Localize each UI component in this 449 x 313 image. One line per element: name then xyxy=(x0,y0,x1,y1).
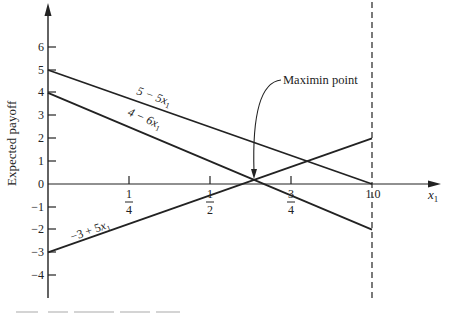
fraction-denominator: 4 xyxy=(288,203,294,217)
x-tick-half: 1 2 xyxy=(206,187,214,217)
x-tick-quarter: 1 4 xyxy=(125,187,133,217)
x-ticks xyxy=(129,176,291,184)
y-tick-label: 6 xyxy=(38,40,44,54)
y-tick-label: 4 xyxy=(38,85,44,99)
y-tick-label: 0 xyxy=(38,177,44,191)
y-ticks xyxy=(48,47,56,275)
x-axis-label: x1 xyxy=(427,187,438,204)
y-axis-arrow-icon xyxy=(45,3,52,16)
chart: 6 5 4 3 2 1 0 −1 −2 −3 −4 Expected payof… xyxy=(0,0,449,313)
y-tick-label: −4 xyxy=(31,268,44,282)
y-tick-label: 5 xyxy=(38,63,44,77)
y-tick-label: −3 xyxy=(31,245,44,259)
x-tick-three-quarter: 3 4 xyxy=(287,187,295,217)
y-tick-label: −1 xyxy=(31,200,44,214)
y-axis-label: Expected payoff xyxy=(4,100,19,186)
fraction-numerator: 1 xyxy=(126,187,132,201)
y-tick-label: 2 xyxy=(38,131,44,145)
label-neg3-plus-5x1: −3 + 5x1 xyxy=(68,217,112,246)
maximin-arrowhead-icon xyxy=(251,169,257,179)
x-tick-one: 1.0 xyxy=(366,187,381,201)
y-tick-labels: 6 5 4 3 2 1 0 −1 −2 −3 −4 xyxy=(31,40,44,282)
y-tick-label: −2 xyxy=(31,222,44,236)
y-tick-label: 3 xyxy=(38,108,44,122)
fraction-denominator: 4 xyxy=(126,203,132,217)
fraction-denominator: 2 xyxy=(207,203,213,217)
line-5-minus-5x1 xyxy=(48,70,372,184)
maximin-label: Maximin point xyxy=(283,73,358,87)
y-tick-label: 1 xyxy=(38,154,44,168)
maximin-arrow xyxy=(254,80,281,172)
